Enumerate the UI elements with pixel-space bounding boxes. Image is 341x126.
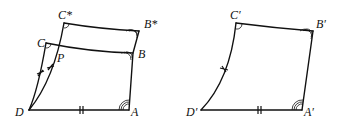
right-figure: C′ B′ D′ A′ <box>185 8 326 119</box>
quadrilateral-diagram: C* B* C P B D A C′ B′ D′ A′ <box>0 0 341 126</box>
label-C-prime: C′ <box>230 8 241 22</box>
label-C: C <box>37 36 46 50</box>
angle-arc-Cstar <box>64 24 69 28</box>
edge-ApBp <box>302 31 313 110</box>
label-P: P <box>56 51 65 65</box>
label-B: B <box>138 47 146 61</box>
edge-AB-Bstar <box>129 31 139 110</box>
left-figure: C* B* C P B D A <box>14 8 157 119</box>
edge-DC <box>29 43 46 110</box>
label-A: A <box>130 105 139 119</box>
angle-arc-A-1 <box>119 100 130 110</box>
angle-arc-Ap-1 <box>292 100 303 110</box>
label-D-prime: D′ <box>185 105 198 119</box>
label-D: D <box>14 105 24 119</box>
label-B-star: B* <box>144 17 157 31</box>
label-C-star: C* <box>58 8 72 22</box>
label-A-prime: A′ <box>303 105 314 119</box>
edge-CpDp <box>201 23 236 110</box>
angle-arc-Cp <box>236 24 242 29</box>
label-B-prime: B′ <box>316 17 326 31</box>
angle-arc-C <box>46 44 51 48</box>
